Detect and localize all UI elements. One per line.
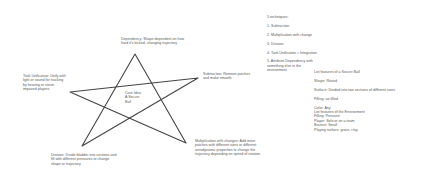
environment-features-list: List features of the Environment Player:… [314, 106, 365, 137]
branch-task-unification: Task Unification: Unify with light or so… [23, 74, 66, 92]
center-core-idea: Core Idea: A Soccer Ball [125, 91, 142, 104]
technique-item: 4. Task Unification ≈ Integration [267, 51, 317, 55]
branch-subtraction: Subtraction: Remove patches and make smo… [203, 72, 250, 81]
ball-features-title: List features of a Soccer Ball [314, 70, 395, 74]
techniques-list: 5 techniques: 1. Subtraction 2. Multipli… [267, 11, 317, 77]
branch-multiplication: Multiplication with changes: Add more pa… [195, 139, 260, 157]
branch-dependency: Dependency: Shape dependent on how hard … [121, 37, 184, 46]
ball-feature-item: Filling: air-filled [314, 97, 395, 101]
technique-item: 2. Multiplication with change [267, 33, 317, 37]
ball-feature-item: Surface: Divided into two sections of di… [314, 88, 395, 92]
technique-item: 5. Attribute Dependency with something e… [267, 59, 317, 72]
branch-division: Division: Divide bladder into sections a… [51, 153, 117, 166]
environment-features-title: List features of the Environment [314, 110, 365, 114]
environment-feature-item: Player: Solo or on a team [314, 119, 365, 123]
ball-feature-item: Shape: Round [314, 79, 395, 83]
techniques-title: 5 techniques: [267, 15, 317, 19]
environment-feature-item: Playing surface: grass, clay [314, 128, 365, 132]
technique-item: 3. Division [267, 42, 317, 46]
technique-item: 1. Subtraction [267, 24, 317, 28]
